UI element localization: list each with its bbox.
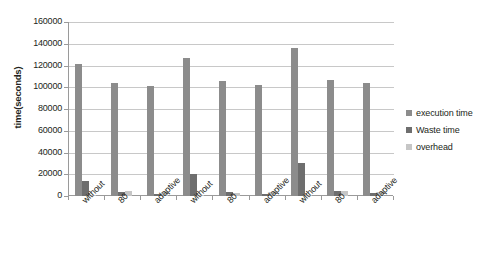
legend-item: execution time — [406, 104, 501, 121]
y-axis-tick-label: 100000 — [6, 81, 62, 91]
y-axis-tick-label: 0 — [6, 190, 62, 200]
plot-area — [68, 22, 393, 196]
y-axis-tick-label: 120000 — [6, 60, 62, 70]
bar-execution-time — [327, 80, 334, 196]
legend-swatch-icon — [406, 127, 412, 133]
chart-legend: execution timeWaste timeoverhead — [406, 104, 501, 155]
y-axis-tick-label: 40000 — [6, 147, 62, 157]
y-axis-tick-label: 160000 — [6, 16, 62, 26]
y-axis-tick-label: 60000 — [6, 125, 62, 135]
legend-label: Waste time — [416, 125, 460, 135]
y-axis-tick-label: 80000 — [6, 103, 62, 113]
bar-execution-time — [183, 58, 190, 196]
bars-layer — [69, 22, 394, 196]
y-axis-tick-label: 20000 — [6, 168, 62, 178]
legend-item: overhead — [406, 138, 501, 155]
x-axis-tick — [393, 196, 394, 200]
bar-execution-time — [111, 83, 118, 196]
legend-label: execution time — [416, 108, 473, 118]
legend-label: overhead — [416, 142, 453, 152]
x-axis-labels: without80adaptivewithout80adaptivewithou… — [68, 198, 393, 258]
y-axis-tick-label: 140000 — [6, 38, 62, 48]
bar-execution-time — [219, 81, 226, 196]
legend-swatch-icon — [406, 144, 412, 150]
legend-item: Waste time — [406, 121, 501, 138]
legend-swatch-icon — [406, 110, 412, 116]
bar-chart: time(seconds) 02000040000600008000010000… — [0, 0, 503, 259]
bar-execution-time — [147, 86, 154, 196]
bar-execution-time — [291, 48, 298, 196]
bar-execution-time — [75, 64, 82, 196]
bar-execution-time — [363, 83, 370, 196]
bar-execution-time — [255, 85, 262, 196]
